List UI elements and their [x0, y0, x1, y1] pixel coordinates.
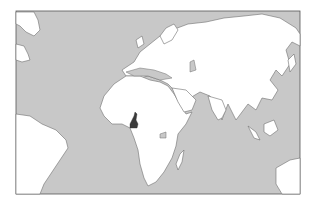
- world-map: [0, 0, 313, 204]
